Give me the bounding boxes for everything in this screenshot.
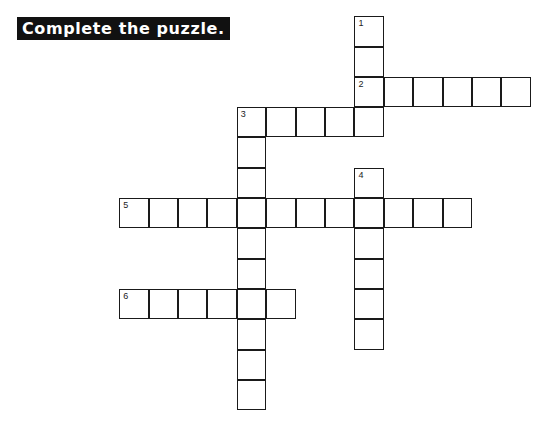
crossword-cell[interactable] — [413, 198, 442, 228]
crossword-cell[interactable] — [354, 289, 383, 319]
crossword-cell[interactable] — [354, 228, 383, 258]
crossword-cell[interactable] — [325, 198, 354, 228]
crossword-grid: 123456 — [0, 0, 545, 426]
crossword-cell[interactable] — [237, 350, 266, 380]
crossword-cell[interactable] — [354, 198, 383, 228]
crossword-cell[interactable]: 1 — [354, 16, 383, 46]
crossword-cell[interactable] — [207, 289, 236, 319]
crossword-cell[interactable] — [354, 47, 383, 77]
clue-number: 5 — [123, 201, 128, 210]
crossword-cell[interactable] — [178, 289, 207, 319]
crossword-cell[interactable]: 3 — [237, 107, 266, 137]
crossword-cell[interactable] — [354, 319, 383, 349]
crossword-cell[interactable] — [296, 107, 325, 137]
crossword-cell[interactable] — [149, 289, 178, 319]
crossword-cell[interactable]: 2 — [354, 77, 383, 107]
crossword-cell[interactable] — [443, 77, 472, 107]
crossword-cell[interactable] — [178, 198, 207, 228]
clue-number: 6 — [123, 292, 128, 301]
crossword-cell[interactable] — [266, 289, 295, 319]
crossword-cell[interactable] — [237, 380, 266, 410]
crossword-cell[interactable] — [354, 259, 383, 289]
crossword-cell[interactable]: 6 — [119, 289, 148, 319]
crossword-cell[interactable]: 4 — [354, 168, 383, 198]
crossword-cell[interactable] — [237, 289, 266, 319]
crossword-cell[interactable] — [501, 77, 530, 107]
crossword-cell[interactable] — [266, 107, 295, 137]
crossword-cell[interactable] — [237, 259, 266, 289]
crossword-cell[interactable] — [354, 107, 383, 137]
clue-number: 3 — [241, 110, 246, 119]
crossword-cell[interactable] — [413, 77, 442, 107]
clue-number: 1 — [358, 19, 363, 28]
crossword-cell[interactable] — [384, 198, 413, 228]
crossword-cell[interactable]: 5 — [119, 198, 148, 228]
crossword-cell[interactable] — [149, 198, 178, 228]
clue-number: 4 — [358, 171, 363, 180]
crossword-cell[interactable] — [207, 198, 236, 228]
crossword-cell[interactable] — [237, 198, 266, 228]
crossword-cell[interactable] — [296, 198, 325, 228]
crossword-cell[interactable] — [237, 168, 266, 198]
crossword-cell[interactable] — [443, 198, 472, 228]
crossword-cell[interactable] — [237, 137, 266, 167]
crossword-cell[interactable] — [325, 107, 354, 137]
crossword-cell[interactable] — [472, 77, 501, 107]
clue-number: 2 — [358, 80, 363, 89]
crossword-cell[interactable] — [266, 198, 295, 228]
crossword-cell[interactable] — [237, 319, 266, 349]
crossword-cell[interactable] — [237, 228, 266, 258]
crossword-cell[interactable] — [384, 77, 413, 107]
